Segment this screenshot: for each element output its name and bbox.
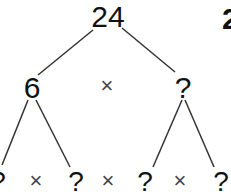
edge-root-left	[38, 30, 93, 75]
edge-left-right	[36, 100, 70, 167]
level1-right-node: ?	[175, 73, 192, 103]
leaf-node-2: ?	[68, 168, 84, 195]
edge-left-left	[2, 100, 28, 165]
leaf-operator-2: ×	[102, 170, 115, 192]
level1-left-node: 6	[24, 73, 41, 103]
corner-mark: 2	[222, 4, 231, 34]
leaf-operator-3: ×	[174, 170, 187, 192]
leaf-node-3: ?	[137, 168, 153, 195]
level1-multiply-operator: ×	[101, 75, 114, 97]
root-node: 24	[91, 2, 124, 32]
leaf-operator-1: ×	[30, 170, 43, 192]
leaf-node-1: ?	[0, 168, 6, 195]
leaf-node-4: ?	[213, 168, 229, 195]
edge-root-right	[122, 28, 175, 72]
edge-right-right	[185, 100, 214, 167]
edge-right-left	[153, 100, 182, 167]
